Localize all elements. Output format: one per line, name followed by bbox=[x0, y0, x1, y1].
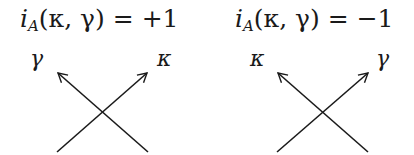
crossing-strands bbox=[0, 0, 414, 155]
